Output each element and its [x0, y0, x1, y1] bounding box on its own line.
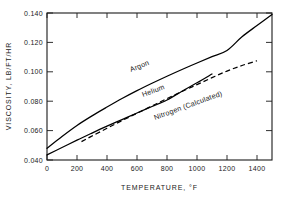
y-tick-label-5: 0.140: [24, 10, 43, 17]
y-tick-label-0: 0.040: [24, 157, 43, 164]
x-tick-label-7: 1400: [249, 165, 266, 172]
x-tick-label-2: 400: [101, 165, 114, 172]
x-tick-label-4: 800: [161, 165, 174, 172]
x-tick-label-1: 200: [71, 165, 84, 172]
y-tick-label-4: 0.120: [24, 39, 43, 46]
y-tick-label-1: 0.060: [24, 127, 43, 134]
y-tick-label-2: 0.080: [24, 98, 43, 105]
x-tick-label-0: 0: [45, 165, 49, 172]
chart-canvas: 0200400600800100012001400 0.0400.0600.08…: [0, 0, 284, 198]
x-tick-label-5: 1000: [189, 165, 206, 172]
x-tick-label-6: 1200: [219, 165, 236, 172]
viscosity-temperature-chart: 0200400600800100012001400 0.0400.0600.08…: [0, 0, 284, 198]
y-tick-label-3: 0.100: [24, 68, 43, 75]
x-axis-title: TEMPERATURE, °F: [121, 184, 198, 191]
x-tick-label-3: 600: [131, 165, 144, 172]
y-axis-title: VISCOSITY, LB/FT/HR: [5, 42, 12, 131]
